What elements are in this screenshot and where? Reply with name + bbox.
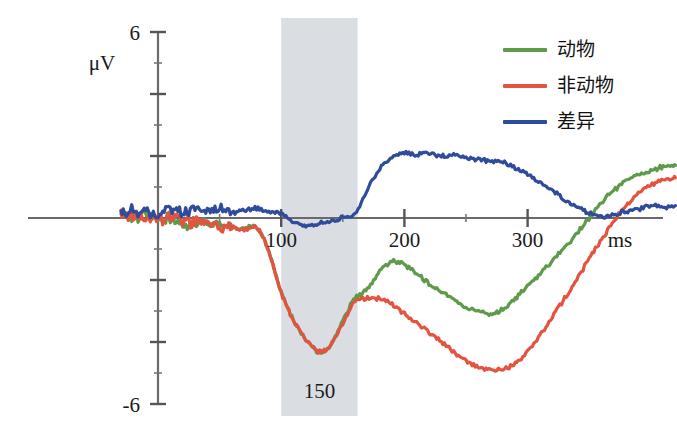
plot-canvas: 6-6μV100200300ms150 bbox=[0, 0, 677, 436]
y-axis-bottom-label: -6 bbox=[123, 393, 141, 417]
legend-label-animal: 动物 bbox=[557, 40, 595, 59]
legend-label-nonanimal: 非动物 bbox=[557, 76, 614, 95]
erp-waveform-figure: 6-6μV100200300ms150 动物 非动物 差异 bbox=[0, 0, 677, 436]
x-axis-tick-label: 100 bbox=[265, 228, 297, 252]
legend-swatch-difference bbox=[503, 120, 547, 124]
y-axis-unit-label: μV bbox=[89, 51, 115, 75]
legend-swatch-animal bbox=[503, 48, 547, 52]
legend-item-nonanimal[interactable]: 非动物 bbox=[503, 76, 614, 95]
legend-swatch-nonanimal bbox=[503, 84, 547, 88]
legend-item-animal[interactable]: 动物 bbox=[503, 40, 595, 59]
shaded-band-label: 150 bbox=[304, 379, 336, 403]
x-axis-tick-label: 200 bbox=[389, 228, 421, 252]
legend-item-difference[interactable]: 差异 bbox=[503, 112, 595, 131]
x-axis-tick-label: 300 bbox=[512, 228, 544, 252]
legend-label-difference: 差异 bbox=[557, 112, 595, 131]
y-axis-top-label: 6 bbox=[130, 21, 141, 45]
x-axis-unit-label: ms bbox=[608, 228, 633, 252]
